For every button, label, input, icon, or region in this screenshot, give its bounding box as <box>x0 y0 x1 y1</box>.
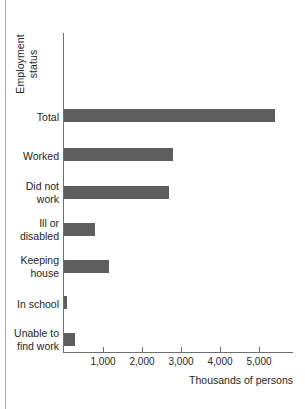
category-label-did-not-work: Did not work <box>0 180 59 205</box>
category-label-line: Keeping <box>0 254 59 267</box>
category-label-line: Unable to <box>0 327 59 340</box>
category-label-keeping-house: Keeping house <box>0 254 59 279</box>
bar-in-school <box>64 296 67 309</box>
x-tick-mark-4000 <box>220 347 221 352</box>
x-tick-mark-5000 <box>259 347 260 352</box>
bar-chart-figure: Employment status Total Worked Did not w… <box>0 0 305 409</box>
x-axis-title: Thousands of persons <box>189 374 293 386</box>
category-label-line: Ill or <box>0 217 59 230</box>
bar-did-not-work <box>64 186 169 199</box>
x-tick-label-5000: 5,000 <box>236 356 282 367</box>
category-label-line: disabled <box>0 230 59 243</box>
category-label-line: house <box>0 267 59 280</box>
x-tick-mark-2000 <box>142 347 143 352</box>
x-tick-mark-3000 <box>181 347 182 352</box>
category-label-line: work <box>0 193 59 206</box>
bar-worked <box>64 148 173 161</box>
category-label-ill-or-disabled: Ill or disabled <box>0 217 59 242</box>
bar-keeping-house <box>64 260 109 273</box>
category-label-in-school: In school <box>0 298 59 311</box>
category-label-worked: Worked <box>0 150 59 163</box>
category-label-line: Total <box>0 111 59 124</box>
category-label-unable-to-find-work: Unable to find work <box>0 327 59 352</box>
bar-unable-to-find-work <box>64 333 75 346</box>
category-label-line: Did not <box>0 180 59 193</box>
category-label-total: Total <box>0 111 59 124</box>
category-label-line: In school <box>0 298 59 311</box>
x-tick-mark-1000 <box>103 347 104 352</box>
bar-total <box>64 109 275 122</box>
category-label-line: Worked <box>0 150 59 163</box>
bar-ill-or-disabled <box>64 223 95 236</box>
category-label-line: find work <box>0 340 59 353</box>
